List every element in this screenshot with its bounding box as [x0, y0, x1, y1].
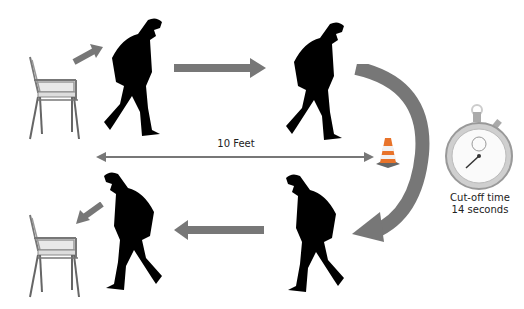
timer-label-line2: 14 seconds — [438, 204, 522, 216]
timer-label: Cut-off time 14 seconds — [438, 192, 522, 215]
distance-label: 10 Feet — [206, 138, 266, 150]
walking-person-icon-2 — [284, 20, 348, 142]
arrow-walk-back — [174, 220, 264, 240]
walking-person-icon-1 — [102, 16, 166, 138]
stopwatch-icon — [444, 104, 514, 190]
walking-person-icon-4 — [282, 172, 346, 296]
arrow-stand-up — [72, 42, 104, 66]
arrow-walk-forward — [174, 58, 266, 78]
traffic-cone-icon — [374, 136, 402, 168]
walking-person-icon-3 — [100, 170, 164, 294]
distance-arrow — [96, 150, 374, 164]
timer-label-line1: Cut-off time — [438, 192, 522, 204]
